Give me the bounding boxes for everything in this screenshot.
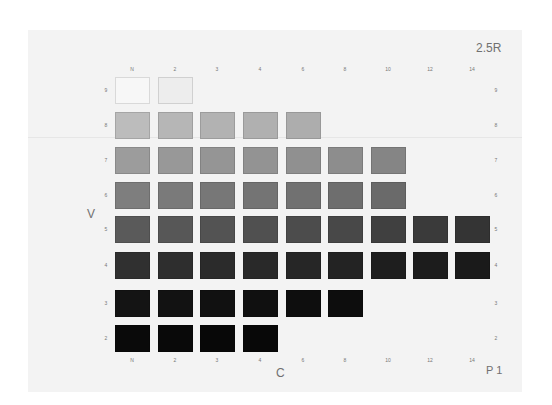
chroma-label-top-2: 2: [165, 66, 185, 72]
color-chip-v7-c3: [200, 147, 235, 174]
color-chip-v5-c14: [455, 216, 490, 243]
color-chip-v7-c10: [371, 147, 406, 174]
color-chip-v7-cN: [115, 147, 150, 174]
color-chip-v8-c4: [243, 112, 278, 139]
color-chip-v3-c2: [158, 290, 193, 317]
color-chip-v4-c12: [413, 252, 448, 279]
chroma-label-bottom-3: 3: [207, 357, 227, 363]
color-chip-v6-c10: [371, 182, 406, 209]
value-label-left-9: 9: [96, 87, 116, 93]
color-chip-v5-cN: [115, 216, 150, 243]
color-chip-v5-c4: [243, 216, 278, 243]
hue-label: 2.5R: [476, 41, 501, 55]
value-label-left-8: 8: [96, 122, 116, 128]
value-label-right-6: 6: [486, 192, 506, 198]
color-chip-v5-c10: [371, 216, 406, 243]
value-axis-label: V: [87, 207, 95, 221]
chroma-label-top-8: 8: [335, 66, 355, 72]
chroma-axis-label: C: [276, 366, 285, 380]
color-chip-v3-c8: [328, 290, 363, 317]
value-label-right-9: 9: [486, 87, 506, 93]
color-chip-v6-c3: [200, 182, 235, 209]
color-chip-v4-c14: [455, 252, 490, 279]
chroma-label-top-10: 10: [378, 66, 398, 72]
chroma-label-bottom-10: 10: [378, 357, 398, 363]
color-chip-v5-c6: [286, 216, 321, 243]
color-chip-v4-c10: [371, 252, 406, 279]
value-label-left-5: 5: [96, 226, 116, 232]
chroma-label-top-12: 12: [420, 66, 440, 72]
color-chip-v5-c2: [158, 216, 193, 243]
color-chip-v2-c3: [200, 325, 235, 352]
color-chip-v9-cN: [115, 77, 150, 104]
value-label-left-4: 4: [96, 262, 116, 268]
color-chip-v5-c3: [200, 216, 235, 243]
value-label-left-2: 2: [96, 335, 116, 341]
color-chip-v6-c6: [286, 182, 321, 209]
chroma-label-top-6: 6: [293, 66, 313, 72]
chroma-label-bottom-6: 6: [293, 357, 313, 363]
chroma-label-bottom-N: N: [122, 357, 142, 363]
color-chip-v3-c3: [200, 290, 235, 317]
chroma-label-top-3: 3: [207, 66, 227, 72]
chroma-label-bottom-8: 8: [335, 357, 355, 363]
color-chip-v6-cN: [115, 182, 150, 209]
value-label-left-7: 7: [96, 157, 116, 163]
color-chip-v7-c8: [328, 147, 363, 174]
color-chip-v6-c8: [328, 182, 363, 209]
color-chip-v4-cN: [115, 252, 150, 279]
chroma-label-top-14: 14: [462, 66, 482, 72]
color-chip-v7-c4: [243, 147, 278, 174]
color-chip-v5-c8: [328, 216, 363, 243]
chroma-label-bottom-2: 2: [165, 357, 185, 363]
color-chip-v7-c6: [286, 147, 321, 174]
color-chip-v3-c6: [286, 290, 321, 317]
color-chip-v5-c12: [413, 216, 448, 243]
value-label-right-2: 2: [486, 335, 506, 341]
color-chip-v4-c2: [158, 252, 193, 279]
chroma-label-bottom-14: 14: [462, 357, 482, 363]
color-chip-v3-c4: [243, 290, 278, 317]
chroma-label-top-N: N: [122, 66, 142, 72]
chroma-label-top-4: 4: [250, 66, 270, 72]
color-chip-v2-cN: [115, 325, 150, 352]
color-chip-v3-cN: [115, 290, 150, 317]
value-label-left-6: 6: [96, 192, 116, 198]
value-label-right-3: 3: [486, 300, 506, 306]
color-chip-v9-c2: [158, 77, 193, 104]
color-chip-v6-c2: [158, 182, 193, 209]
color-chip-v8-c6: [286, 112, 321, 139]
value-label-right-8: 8: [486, 122, 506, 128]
color-chip-v4-c3: [200, 252, 235, 279]
value-label-right-7: 7: [486, 157, 506, 163]
color-chip-v4-c8: [328, 252, 363, 279]
color-chip-v4-c4: [243, 252, 278, 279]
color-chip-v8-cN: [115, 112, 150, 139]
chroma-label-bottom-12: 12: [420, 357, 440, 363]
color-chip-v4-c6: [286, 252, 321, 279]
color-chip-v2-c2: [158, 325, 193, 352]
color-chip-v6-c4: [243, 182, 278, 209]
color-chip-v7-c2: [158, 147, 193, 174]
color-chip-v2-c4: [243, 325, 278, 352]
color-chip-v8-c3: [200, 112, 235, 139]
value-label-left-3: 3: [96, 300, 116, 306]
chroma-label-bottom-4: 4: [250, 357, 270, 363]
color-chip-v8-c2: [158, 112, 193, 139]
plate-number: P 1: [486, 364, 502, 376]
